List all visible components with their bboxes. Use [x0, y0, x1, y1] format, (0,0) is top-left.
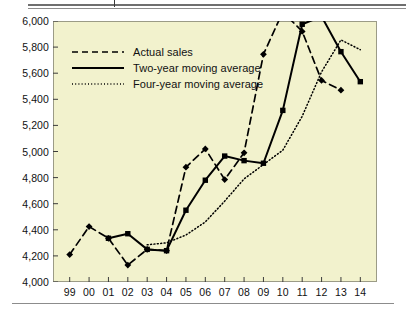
- x-axis-tick-label: 03: [141, 286, 153, 298]
- x-axis-tick-label: 05: [180, 286, 192, 298]
- x-axis-tick-label: 99: [64, 286, 76, 298]
- legend-label-actual-sales: Actual sales: [133, 46, 193, 58]
- x-axis-tick-label: 04: [161, 286, 173, 298]
- x-axis-tick-label: 02: [122, 286, 134, 298]
- header-rule-thick: [28, 4, 406, 6]
- chart-page: 4,0004,2004,4004,6004,8005,0005,2005,400…: [0, 0, 411, 315]
- x-axis-tick-label: 12: [316, 286, 328, 298]
- legend-swatch-solid-icon: [72, 62, 124, 74]
- x-axis-tick-label: 10: [277, 286, 289, 298]
- x-axis-tick-label: 01: [102, 286, 114, 298]
- x-axis-labels: 99000102030405060708091011121314: [53, 286, 377, 304]
- x-axis-tick-label: 08: [238, 286, 250, 298]
- y-axis-tick-label: 4,600: [22, 198, 49, 210]
- y-axis-tick-label: 5,600: [22, 67, 49, 79]
- chart-legend: Actual sales Two-year moving average Fou…: [72, 45, 263, 93]
- legend-item-four-year-moving-average: Four-year moving average: [72, 77, 263, 91]
- y-axis-tick-label: 4,000: [22, 276, 49, 288]
- y-axis-tick-label: 5,400: [22, 93, 49, 105]
- x-axis-tick-label: 13: [335, 286, 347, 298]
- legend-item-two-year-moving-average: Two-year moving average: [72, 61, 263, 75]
- legend-swatch-dotted-icon: [72, 78, 124, 90]
- y-axis-tick-label: 5,800: [22, 41, 49, 53]
- y-axis-labels: 4,0004,2004,4004,6004,8005,0005,2005,400…: [0, 21, 49, 282]
- x-axis-tick-label: 14: [354, 286, 366, 298]
- x-axis-tick-label: 06: [199, 286, 211, 298]
- legend-label-two-year-moving-average: Two-year moving average: [133, 62, 261, 74]
- y-axis-tick-label: 6,000: [22, 15, 49, 27]
- legend-swatch-dashed-icon: [72, 46, 124, 58]
- y-axis-tick-label: 4,200: [22, 250, 49, 262]
- header-tick-mark: [114, 0, 115, 7]
- header-rule-thin: [28, 8, 406, 9]
- legend-item-actual-sales: Actual sales: [72, 45, 263, 59]
- y-axis-tick-label: 4,400: [22, 224, 49, 236]
- legend-label-four-year-moving-average: Four-year moving average: [133, 78, 263, 90]
- x-axis-tick-label: 09: [257, 286, 269, 298]
- y-axis-tick-label: 5,000: [22, 146, 49, 158]
- footer-rule: [12, 303, 394, 304]
- y-axis-tick-label: 4,800: [22, 172, 49, 184]
- x-axis-tick-label: 00: [83, 286, 95, 298]
- x-axis-tick-label: 07: [219, 286, 231, 298]
- x-axis-tick-label: 11: [297, 286, 308, 298]
- y-axis-tick-label: 5,200: [22, 119, 49, 131]
